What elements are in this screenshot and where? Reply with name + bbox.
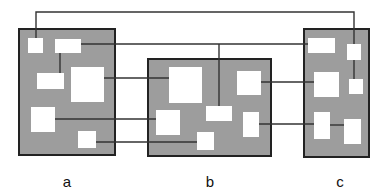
block-a6 bbox=[78, 131, 96, 148]
block-b4 bbox=[156, 110, 180, 135]
block-c5 bbox=[314, 112, 330, 139]
block-b6 bbox=[197, 132, 214, 150]
block-a4 bbox=[71, 67, 104, 102]
block-c2 bbox=[347, 44, 361, 60]
block-c4 bbox=[349, 79, 363, 94]
block-c1 bbox=[308, 38, 335, 53]
connector-a1-c2 bbox=[36, 12, 354, 44]
block-b2 bbox=[237, 71, 261, 95]
block-c6 bbox=[344, 119, 361, 144]
block-b1 bbox=[169, 67, 202, 103]
block-b3 bbox=[206, 106, 232, 121]
block-a2 bbox=[55, 39, 81, 53]
block-c3 bbox=[314, 72, 339, 97]
block-a1 bbox=[28, 38, 43, 53]
block-a3 bbox=[37, 73, 64, 89]
block-a5 bbox=[31, 107, 55, 132]
block-b5 bbox=[243, 112, 259, 137]
